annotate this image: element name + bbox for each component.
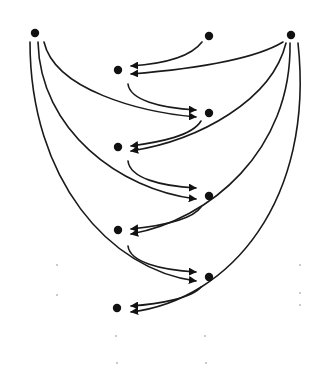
- edge-B-to-L1: [131, 42, 202, 66]
- graph-svg: [0, 0, 321, 385]
- scan-speck: [115, 335, 117, 337]
- edge-A-to-R2: [38, 42, 196, 199]
- edge-A-to-R1: [44, 42, 196, 117]
- edge-L2-to-R2: [128, 161, 196, 188]
- graph-diagram: [0, 0, 321, 385]
- node-L1: [114, 66, 122, 74]
- edge-C-to-L1: [131, 42, 283, 74]
- scan-speck: [205, 362, 207, 364]
- edge-L1-to-R1: [128, 84, 196, 110]
- node-A: [31, 29, 39, 37]
- scan-speck: [299, 264, 301, 266]
- scan-speck: [56, 294, 58, 296]
- node-L2: [114, 143, 122, 151]
- node-R2: [205, 192, 213, 200]
- scan-speck: [299, 304, 301, 306]
- scan-speck: [299, 292, 301, 294]
- edge-R2-to-L3: [131, 207, 201, 229]
- node-C: [287, 31, 295, 39]
- edge-R1-to-L2: [131, 121, 201, 146]
- node-B: [205, 32, 213, 40]
- edge-C-to-L2: [131, 43, 286, 151]
- edge-C-to-L4: [131, 43, 300, 312]
- scan-speck: [116, 362, 118, 364]
- edge-layer: [30, 42, 300, 312]
- scan-speck: [204, 335, 206, 337]
- node-L4: [113, 304, 121, 312]
- node-R3: [205, 273, 213, 281]
- scan-noise-layer: [56, 264, 301, 364]
- edge-L3-to-R3: [128, 246, 196, 272]
- node-R1: [205, 109, 213, 117]
- node-L3: [114, 226, 122, 234]
- scan-speck: [56, 264, 58, 266]
- edge-A-to-R3: [30, 42, 196, 281]
